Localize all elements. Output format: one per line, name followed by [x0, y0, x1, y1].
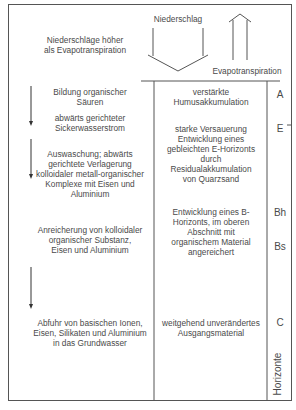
process-enrichment: Anreicherung von kolloidaler organischer… — [25, 225, 155, 255]
text-line: weitgehend unverändertes — [155, 318, 267, 328]
text-line: Humusakkumulation — [155, 97, 267, 107]
process-leaching: Auswaschung; abwärts gerichtete Verlager… — [25, 149, 155, 199]
text-line: Eisen und Aluminium — [25, 245, 155, 255]
condition-text: Niederschläge höher als Evapotranspirati… — [30, 35, 140, 55]
text-line: verstärkte — [155, 87, 267, 97]
text-line: starke Versauerung — [155, 124, 267, 134]
evapotranspiration-label: Evapotranspiration — [205, 66, 289, 76]
text-line: Horizonts, im oberen — [155, 217, 267, 227]
text-line: von Quarzsand — [155, 174, 267, 184]
text-line: Aluminium — [25, 189, 155, 199]
text-line: Abschnitt mit — [155, 227, 267, 237]
process-seepage: abwärts gerichteter Sickerwasserstrom — [25, 113, 155, 133]
text-line: Sickerwasserstrom — [25, 123, 155, 133]
result-humus: verstärkte Humusakkumulation — [155, 87, 267, 107]
text-line: Niederschläge höher — [30, 35, 140, 45]
process-organic-acids: Bildung organischer Säuren — [25, 87, 155, 107]
text-line: Bildung organischer — [25, 87, 155, 97]
horizon-bh: Bh — [268, 208, 292, 218]
text-line: Entwicklung eines — [155, 134, 267, 144]
process-removal: Abfuhr von basischen Ionen, Eisen, Silik… — [25, 318, 155, 348]
horizons-column-label: Horizonte — [273, 344, 283, 404]
text-line: als Evapotranspiration — [30, 45, 140, 55]
text-line: gerichtete Verlagerung — [25, 159, 155, 169]
text-line: Anreicherung von kolloidaler — [25, 225, 155, 235]
text-line: Residualakkumulation — [155, 164, 267, 174]
precipitation-label: Niederschlag — [150, 14, 206, 24]
diagram-lines — [0, 0, 296, 410]
text-line: Komplexe mit Eisen und — [25, 179, 155, 189]
text-line: durch — [155, 154, 267, 164]
text-line: Säuren — [25, 97, 155, 107]
horizon-c: C — [268, 318, 292, 328]
text-line: organischer Substanz, — [25, 235, 155, 245]
horizon-e: E — [268, 124, 292, 134]
text-line: organischem Material — [155, 237, 267, 247]
text-line: Entwicklung eines B- — [155, 207, 267, 217]
result-c-horizon: weitgehend unverändertes Ausgangsmateria… — [155, 318, 267, 338]
text-line: abwärts gerichteter — [25, 113, 155, 123]
text-line: in das Grundwasser — [25, 338, 155, 348]
text-line: gebleichten E-Horizonts — [155, 144, 267, 154]
text-line: Auswaschung; abwärts — [25, 149, 155, 159]
horizon-a: A — [268, 90, 292, 100]
text-line: kolloidaler metall-organischer — [25, 169, 155, 179]
text-line: Eisen, Silikaten und Aluminium — [25, 328, 155, 338]
text-line: Ausgangsmaterial — [155, 328, 267, 338]
text-line: angereichert — [155, 247, 267, 257]
text-line: Abfuhr von basischen Ionen, — [25, 318, 155, 328]
result-e-horizon: starke Versauerung Entwicklung eines geb… — [155, 124, 267, 184]
horizon-bs: Bs — [268, 242, 292, 252]
result-b-horizon: Entwicklung eines B- Horizonts, im obere… — [155, 207, 267, 257]
